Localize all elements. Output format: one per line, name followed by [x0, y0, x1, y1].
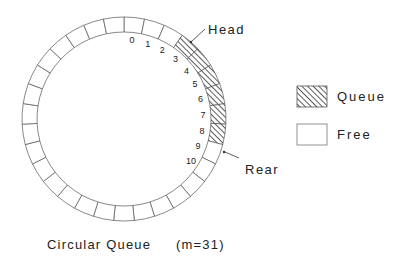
slot-index-label: 3 — [173, 54, 178, 64]
slot-index-label: 6 — [198, 94, 203, 104]
legend: Queue Free — [297, 86, 386, 145]
queue-slot-occupied — [210, 104, 226, 125]
hatched-swatch-icon — [297, 86, 327, 107]
slot-index-label: 1 — [145, 39, 150, 49]
queue-slot-free — [114, 206, 135, 221]
queue-slot-free — [103, 17, 124, 34]
head-callout: Head — [190, 22, 245, 43]
empty-swatch-icon — [297, 124, 327, 145]
head-pointer-line — [192, 29, 205, 41]
head-label: Head — [208, 22, 245, 37]
queue-slot-free — [22, 123, 40, 144]
slot-index-label: 10 — [186, 156, 196, 166]
slot-index-label: 7 — [200, 110, 205, 120]
rear-pointer-dot — [223, 151, 225, 153]
slot-index-label: 2 — [160, 45, 165, 55]
caption-param: (m=31) — [176, 237, 225, 252]
legend-item-queue: Queue — [297, 86, 386, 107]
queue-slot-free — [133, 202, 155, 220]
rear-label: Rear — [245, 162, 279, 177]
rear-callout: Rear — [223, 151, 279, 177]
slot-index-label: 8 — [200, 126, 205, 136]
slot-index-label: 4 — [184, 66, 189, 76]
queue-slot-free — [22, 104, 38, 125]
queue-ring — [22, 17, 226, 221]
circular-queue-diagram: 012345678910 Head Rear Queue Free Circul… — [0, 0, 405, 268]
slot-index-label: 0 — [129, 35, 134, 45]
queue-slot-free — [124, 17, 145, 34]
caption-title: Circular Queue — [47, 237, 151, 252]
legend-label-free: Free — [337, 127, 372, 142]
slot-index-label: 9 — [196, 141, 201, 151]
legend-label-queue: Queue — [337, 89, 386, 104]
caption: Circular Queue (m=31) — [47, 237, 225, 252]
slot-index-label: 5 — [192, 79, 197, 89]
rear-pointer-line — [225, 152, 239, 158]
legend-item-free: Free — [297, 124, 372, 145]
head-pointer-dot — [190, 41, 192, 43]
